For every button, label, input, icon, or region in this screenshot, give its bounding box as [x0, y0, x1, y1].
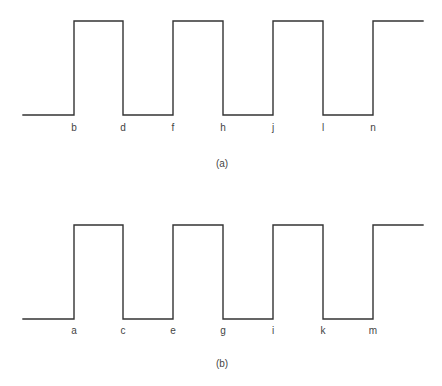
edge-label-h: h: [220, 122, 226, 133]
edge-labels-a: bdfhjln: [71, 122, 376, 133]
edge-label-d: d: [120, 122, 126, 133]
edge-label-f: f: [172, 122, 175, 133]
edge-label-l: l: [322, 122, 324, 133]
edge-label-m: m: [369, 325, 377, 336]
edge-label-i: i: [272, 325, 274, 336]
edge-label-c: c: [121, 325, 126, 336]
edge-label-k: k: [321, 325, 327, 336]
edge-label-e: e: [170, 325, 176, 336]
panel-a: bdfhjln (a): [23, 21, 423, 169]
edge-labels-b: acegikm: [71, 325, 377, 336]
edge-label-b: b: [71, 122, 77, 133]
square-wave-figure: bdfhjln (a) acegikm (b): [0, 0, 442, 386]
square-wave-a: [23, 21, 423, 115]
edge-label-a: a: [71, 325, 77, 336]
edge-label-n: n: [370, 122, 376, 133]
square-wave-b: [23, 225, 423, 319]
edge-label-j: j: [271, 122, 274, 133]
edge-label-g: g: [220, 325, 226, 336]
caption-b: (b): [216, 358, 228, 369]
panel-b: acegikm (b): [23, 225, 423, 369]
caption-a: (a): [216, 158, 228, 169]
